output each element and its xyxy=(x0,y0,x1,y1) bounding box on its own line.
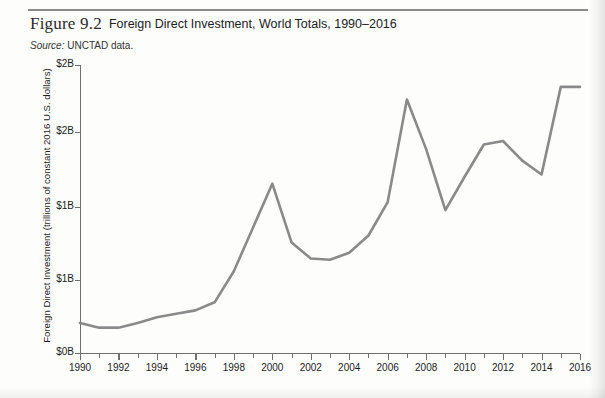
x-axis-tick-label: 2000 xyxy=(250,362,294,373)
x-axis-tick-label: 2008 xyxy=(404,362,448,373)
x-axis-tick-label: 2012 xyxy=(481,362,525,373)
x-axis-tick-label: 2006 xyxy=(366,362,410,373)
x-axis-tick-label: 2010 xyxy=(443,362,487,373)
x-axis-tick-label: 2004 xyxy=(327,362,371,373)
series-line xyxy=(80,87,580,328)
y-axis-tick-label: $2B xyxy=(32,58,74,69)
x-axis-tick-label: 1996 xyxy=(173,362,217,373)
y-axis-tick-label: $1B xyxy=(32,273,74,284)
series-layer xyxy=(0,0,605,398)
x-axis-tick-label: 2002 xyxy=(289,362,333,373)
x-axis-tick-label: 2016 xyxy=(558,362,602,373)
y-axis-tick-label: $1B xyxy=(32,200,74,211)
figure-page: Figure 9.2Foreign Direct Investment, Wor… xyxy=(0,0,605,398)
chart-plot-area: Foreign Direct Investment (trillions of … xyxy=(0,0,605,398)
y-axis-tick-label: $2B xyxy=(32,125,74,136)
x-axis-tick-label: 1990 xyxy=(58,362,102,373)
x-axis-tick-label: 1994 xyxy=(135,362,179,373)
y-axis-tick-label: $0B xyxy=(32,346,74,357)
x-axis-tick-label: 1998 xyxy=(212,362,256,373)
x-axis-tick-label: 2014 xyxy=(520,362,564,373)
x-axis-tick-label: 1992 xyxy=(96,362,140,373)
